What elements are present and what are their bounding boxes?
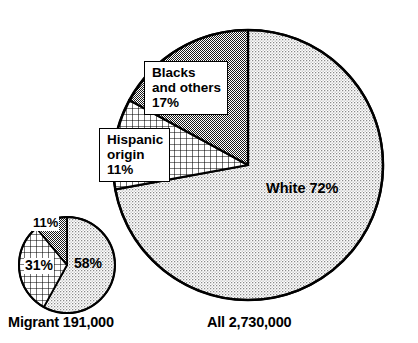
all-pie-label-blacks-line1: Blacks bbox=[152, 65, 221, 80]
pie-chart-figure: Blacks and others 17% Hispanic origin 11… bbox=[0, 0, 418, 343]
all-pie-label-hispanic-line2: origin bbox=[107, 147, 163, 162]
migrant-pie-label-hispanic: 31% bbox=[24, 258, 54, 274]
all-pie-caption: All 2,730,000 bbox=[207, 314, 291, 330]
migrant-pie-label-white: 58% bbox=[74, 256, 102, 272]
all-pie-label-blacks-line3: 17% bbox=[152, 95, 221, 110]
migrant-pie-caption: Migrant 191,000 bbox=[8, 314, 114, 330]
all-pie-label-blacks: Blacks and others 17% bbox=[144, 61, 228, 115]
all-pie-label-white: White 72% bbox=[266, 180, 339, 196]
all-pie-label-hispanic: Hispanic origin 11% bbox=[99, 128, 170, 182]
pie-chart-canvas bbox=[0, 0, 418, 343]
all-pie-label-blacks-line2: and others bbox=[152, 80, 221, 95]
migrant-pie-label-blacks: 11% bbox=[32, 216, 59, 231]
all-pie-label-hispanic-line3: 11% bbox=[107, 162, 163, 177]
all-pie-label-hispanic-line1: Hispanic bbox=[107, 132, 163, 147]
